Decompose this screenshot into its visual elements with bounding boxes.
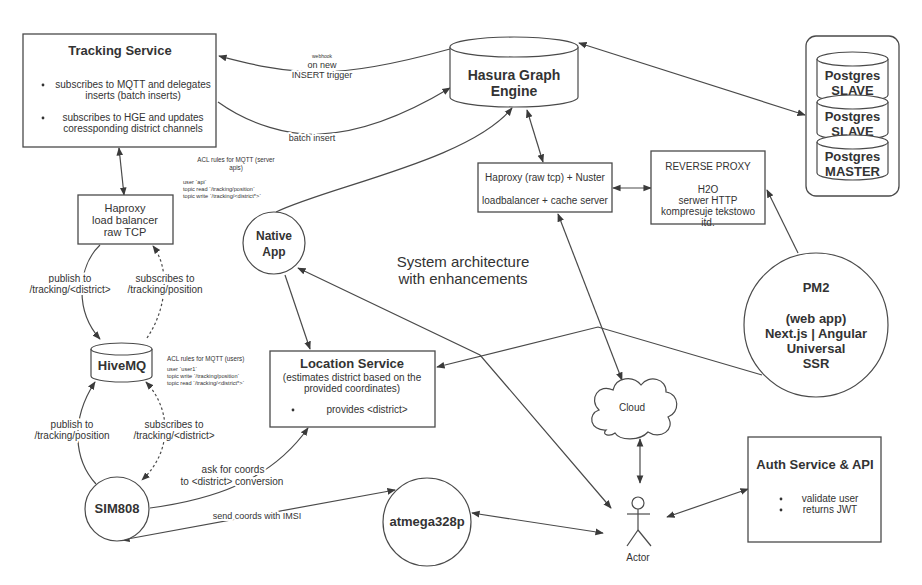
hasura-graph-engine-node: Hasura Graph Engine [450,37,578,107]
edge-nuster-cloud [558,214,622,380]
pm2-label-5: SSR [803,356,830,371]
acl-users-line-2: topic write `/tracking/position` [167,373,240,379]
publish-position-label-1: publish to [51,419,94,430]
postgres-master: Postgres MASTER [817,135,888,180]
auth-bullet-1: validate user [802,493,859,504]
location-service-node: Location Service (estimates district bas… [270,351,435,427]
tracking-service-node: Tracking Service subscribes to MQTT and … [23,34,216,147]
edge-pm2-reverse-proxy [767,190,798,253]
diagram-title-line-1: System architecture [397,253,530,270]
acl-server-annotation: ACL rules for MQTT (server apis) user `a… [183,156,275,199]
tracking-bullet-2-line-2: coressponding district channels [63,123,203,134]
publish-district-label-2: /tracking/<district> [29,284,110,295]
pm2-node: PM2 (web app) Next.js | Angular Universa… [744,253,888,397]
acl-users-line-1: user `user1` [167,366,197,372]
ask-coords-label-2: to <district> conversion [181,476,284,487]
haproxy-nuster-node: Haproxy (raw tcp) + Nuster loadbalancer … [478,163,612,212]
actor-stick-figure-icon [627,497,651,546]
cloud-node: Cloud [592,379,677,439]
reverse-proxy-line-1: H2O [698,184,719,195]
webhook-label-line-1: on new [307,60,337,70]
auth-bullet-2: returns JWT [803,504,857,515]
acl-server-title-1: ACL rules for MQTT (server [197,156,274,164]
auth-service-box [748,437,881,542]
haproxy-nuster-label-1: Haproxy (raw tcp) + Nuster [485,172,605,183]
architecture-diagram: System architecture with enhancements we… [0,0,922,585]
location-service-subtitle-2: provided coordinates) [304,383,400,394]
tracking-bullet-1-line-1: subscribes to MQTT and delegates [55,79,210,90]
location-service-title: Location Service [300,356,404,371]
sim808-node: SIM808 [85,477,149,541]
pm2-label-1: PM2 [803,280,830,295]
location-service-subtitle-1: (estimates district based on the [283,372,422,383]
subscribe-position-label-1: subscribes to [136,273,195,284]
subscribe-district-label-1: subscribes to [145,419,204,430]
actor-label: Actor [626,552,650,563]
acl-users-annotation: ACL rules for MQTT (users) user `user1` … [167,355,245,386]
auth-service-node: Auth Service & API validate user returns… [748,437,881,542]
cylinder-top [817,52,888,66]
postgres-3-name: Postgres [825,149,881,164]
hivemq-node: HiveMQ [91,343,152,382]
hivemq-cylinder-top [91,343,152,355]
edge-actor-auth [667,489,748,517]
pm2-label-3: Next.js | Angular [765,326,867,341]
hasura-label-1: Hasura Graph [468,67,561,83]
pm2-label-4: Universal [787,341,846,356]
postgres-3-role: MASTER [825,164,881,179]
auth-service-title: Auth Service & API [756,457,873,472]
acl-users-line-3: topic read `/tracking/<district*>` [167,380,245,386]
send-coords-label: send coords with IMSI [213,511,302,521]
edge-batch-insert [218,88,450,134]
tracking-service-title: Tracking Service [68,43,171,58]
bullet-icon [780,498,783,501]
haproxy-tcp-label-1: Haproxy [105,202,146,214]
pm2-label-2: (web app) [786,311,847,326]
diagram-title: System architecture with enhancements [397,253,530,287]
edge-native-location [285,275,310,349]
batch-insert-label: batch insert [289,133,336,143]
postgres-slave-2: Postgres SLAVE [817,95,888,140]
acl-users-title: ACL rules for MQTT (users) [167,355,244,363]
edge-hasura-postgres [579,43,805,115]
native-app-circle [243,212,305,274]
acl-server-line-3: topic write `/tracking/<district*>` [183,193,261,199]
edge-atmega-actor [472,513,603,533]
edge-pm2-location [437,327,762,375]
bullet-icon [42,84,45,87]
bullet-icon [780,509,783,512]
haproxy-nuster-label-2: loadbalancer + cache server [482,195,609,206]
hasura-label-2: Engine [491,83,538,99]
tracking-bullet-2-line-1: subscribes to HGE and updates [62,112,203,123]
cloud-label: Cloud [619,402,645,413]
cylinder-top [817,135,888,149]
actor-node: Actor [626,497,651,563]
subscribe-district-label-2: /tracking/<district> [133,430,214,441]
hasura-cylinder-top [450,37,578,57]
location-service-bullet-1: provides <district> [326,404,407,415]
hivemq-label: HiveMQ [98,358,146,373]
bullet-icon [42,117,45,120]
reverse-proxy-title: REVERSE PROXY [665,161,751,172]
sim808-label: SIM808 [95,501,140,516]
native-app-label-1: Native [256,229,292,243]
haproxy-tcp-node: Haproxy load balancer raw TCP [78,195,173,244]
cylinder-top [817,95,888,109]
postgres-cluster: Postgres SLAVE Postgres SLAVE Postgres M… [806,36,899,196]
reverse-proxy-node: REVERSE PROXY H2O serwer HTTP kompresuje… [651,151,765,228]
publish-district-label-1: publish to [49,273,92,284]
native-app-node: Native App [243,212,305,274]
reverse-proxy-line-2: serwer HTTP [679,195,738,206]
haproxy-tcp-label-3: raw TCP [104,226,147,238]
diagram-title-line-2: with enhancements [397,270,527,287]
edge-tracking-haproxy [119,148,124,195]
ask-coords-label-1: ask for coords [202,464,265,475]
haproxy-tcp-label-2: load balancer [92,214,158,226]
webhook-label-line-2: INSERT trigger [292,70,353,80]
atmega328p-node: atmega328p [383,478,471,566]
postgres-1-name: Postgres [825,68,881,83]
tracking-bullet-1-line-2: inserts (batch inserts) [85,90,181,101]
subscribe-position-label-2: /tracking/position [127,284,202,295]
reverse-proxy-line-4: itd. [701,217,714,228]
native-app-label-2: App [262,245,285,259]
